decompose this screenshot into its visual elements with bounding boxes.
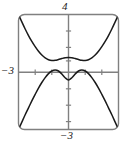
y-max-label: 4 <box>62 1 68 12</box>
y-min-label: −3 <box>60 130 73 141</box>
x-min-label: −3 <box>1 65 14 76</box>
plot-area <box>0 0 137 144</box>
calculator-viewport: 4 −3 −3 <box>0 0 137 144</box>
